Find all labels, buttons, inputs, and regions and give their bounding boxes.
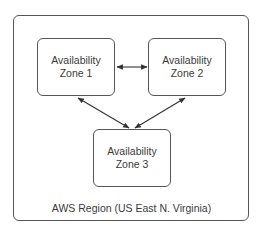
zone-1-line1: Availability (51, 54, 100, 67)
arrow-zone2-zone3 (135, 98, 185, 128)
zone-1-line2: Zone 1 (60, 67, 93, 80)
zone-3-line2: Zone 3 (116, 158, 149, 171)
zone-3-line1: Availability (107, 145, 156, 158)
availability-zone-3: Availability Zone 3 (93, 129, 171, 187)
arrow-zone1-zone3 (78, 98, 129, 128)
zone-2-line1: Availability (162, 54, 211, 67)
availability-zone-2: Availability Zone 2 (148, 38, 226, 96)
availability-zone-1: Availability Zone 1 (37, 38, 115, 96)
region-label: AWS Region (US East N. Virginia) (0, 202, 263, 214)
connection-arrows (0, 0, 263, 234)
zone-2-line2: Zone 2 (171, 67, 204, 80)
